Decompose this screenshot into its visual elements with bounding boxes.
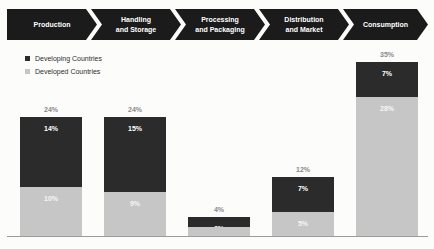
- segment-value-label: 5%: [298, 217, 308, 227]
- flow-stage-label: Handling and Storage: [108, 15, 164, 33]
- bar-total-label: 4%: [188, 206, 250, 213]
- developing-countries-swatch-icon: [25, 56, 30, 61]
- bar-segment-developed: 5%: [272, 212, 334, 237]
- bar-segment-developing: 7%: [356, 62, 418, 97]
- flow-stage-consumption: Consumption: [343, 9, 428, 40]
- legend-item-developing: Developing Countries: [25, 55, 102, 62]
- bar-processing-packaging: 4% 2% 2%: [188, 206, 250, 237]
- bar-segment-developed: 10%: [20, 187, 82, 237]
- food-loss-stacked-bar-chart: Production Handling and Storage Processi…: [0, 0, 434, 249]
- flow-stage-handling-storage: Handling and Storage: [91, 9, 181, 40]
- flow-stage-processing-packaging: Processing and Packaging: [175, 9, 265, 40]
- legend: Developing Countries Developed Countries: [25, 55, 102, 81]
- flow-stage-label: Production: [26, 20, 79, 29]
- legend-label: Developed Countries: [35, 68, 100, 75]
- bar-segment-developing: 2%: [188, 217, 250, 227]
- x-axis-line: [7, 236, 428, 237]
- bar-total-label: 24%: [20, 106, 82, 113]
- developed-countries-swatch-icon: [25, 69, 30, 74]
- segment-value-label: 7%: [298, 182, 308, 192]
- bar-segment-developing: 7%: [272, 177, 334, 212]
- flow-stage-label: Distribution and Market: [276, 15, 331, 33]
- bar-production: 24% 14% 10%: [20, 106, 82, 237]
- bar-segment-developed: 9%: [104, 192, 166, 237]
- flow-stage-label: Processing and Packaging: [187, 15, 252, 33]
- bar-segment-developing: 15%: [104, 117, 166, 192]
- flow-stage-production: Production: [7, 9, 97, 40]
- bar-distribution-market: 12% 7% 5%: [272, 166, 334, 237]
- segment-value-label: 15%: [128, 122, 142, 132]
- bar-segment-developed: 28%: [356, 97, 418, 237]
- bar-handling-storage: 24% 15% 9%: [104, 106, 166, 237]
- bar-total-label: 12%: [272, 166, 334, 173]
- bar-segment-developing: 14%: [20, 117, 82, 187]
- bar-total-label: 35%: [356, 51, 418, 58]
- bar-consumption: 35% 7% 28%: [356, 51, 418, 237]
- bar-total-label: 24%: [104, 106, 166, 113]
- segment-value-label: 10%: [44, 192, 58, 202]
- legend-label: Developing Countries: [35, 55, 102, 62]
- flow-stage-label: Consumption: [355, 20, 416, 29]
- segment-value-label: 9%: [130, 197, 140, 207]
- segment-value-label: 28%: [380, 102, 394, 112]
- legend-item-developed: Developed Countries: [25, 68, 102, 75]
- segment-value-label: 14%: [44, 122, 58, 132]
- process-flow: Production Handling and Storage Processi…: [0, 9, 434, 40]
- flow-stage-distribution-market: Distribution and Market: [259, 9, 349, 40]
- segment-value-label: 7%: [382, 67, 392, 77]
